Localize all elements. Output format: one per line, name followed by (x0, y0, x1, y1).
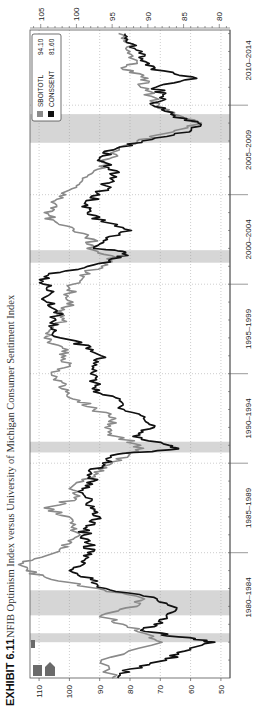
right-axis-label: 85 (180, 12, 189, 21)
right-value-axis-sboitotl: 80859095100105 (30, 7, 230, 28)
legend-swatch-sboitotl (37, 111, 43, 117)
time-axis-label: 2000–2004 (244, 219, 253, 260)
left-axis-label: 90 (96, 684, 105, 693)
event-marker-2 (45, 662, 55, 676)
time-axis-label: 2005–2009 (244, 129, 253, 170)
time-axis-label: 1995–1999 (244, 308, 253, 349)
legend-label-conssent: CONSSENT (48, 71, 55, 107)
left-axis-label: 80 (126, 684, 135, 693)
legend-swatch-conssent (48, 111, 54, 117)
exhibit-label: EXHIBIT 6.11 (4, 639, 16, 706)
event-marker-3 (31, 640, 35, 648)
time-axis-label: 1990–1994 (244, 398, 253, 439)
chart-title: NFIB Optimism Index versus University of… (5, 294, 16, 638)
time-axis-label: 1985–1989 (244, 487, 253, 528)
left-axis-label: 50 (217, 684, 226, 693)
legend-entry-conssent: CONSSENT 81.60 (48, 38, 55, 117)
event-markers (31, 640, 55, 676)
legend-label-sboitotl: SBOITOTL (37, 75, 44, 107)
right-axis-label: 80 (215, 12, 224, 21)
time-axis-label: 1980–1984 (244, 577, 253, 618)
right-axis-label: 105 (37, 7, 46, 21)
time-axis-label: 2010–2014 (244, 40, 253, 81)
legend-value-sboitotl: 94.10 (37, 38, 44, 55)
exhibit-title-group: EXHIBIT 6.11 NFIB Optimism Index versus … (4, 294, 16, 706)
left-axis-label: 110 (35, 684, 44, 697)
time-axis: 1980–19841985–19891990–19941995–19992000… (228, 30, 253, 678)
recession-band-1 (30, 633, 230, 642)
right-axis-label: 90 (144, 12, 153, 21)
left-value-axis-conssent: 5060708090100110 (35, 678, 226, 698)
rotated-line-chart: EXHIBIT 6.11 NFIB Optimism Index versus … (0, 0, 263, 713)
legend: SBOITOTL 94.10 CONSSENT 81.60 (32, 34, 61, 121)
left-axis-label: 60 (187, 684, 196, 693)
chart-page: EXHIBIT 6.11 NFIB Optimism Index versus … (0, 0, 263, 713)
event-marker-1 (33, 665, 42, 676)
legend-entry-sboitotl: SBOITOTL 94.10 (37, 38, 44, 117)
right-axis-label: 95 (108, 12, 117, 21)
left-axis-label: 70 (156, 684, 165, 693)
left-axis-label: 100 (65, 684, 74, 698)
legend-value-conssent: 81.60 (48, 38, 55, 55)
right-axis-label: 100 (72, 7, 81, 21)
